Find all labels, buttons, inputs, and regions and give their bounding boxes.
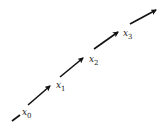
arrow-x3-next <box>130 10 156 24</box>
arrow-x1-x2 <box>60 58 83 77</box>
arrow-x2-x3 <box>94 32 118 49</box>
label-x2: x2 <box>89 55 99 67</box>
label-x1: x1 <box>56 81 66 93</box>
arrow-x0-x1 <box>28 86 50 105</box>
label-x3: x3 <box>123 29 133 41</box>
label-x0: x0 <box>22 108 32 120</box>
lead-in-segment <box>12 115 20 121</box>
